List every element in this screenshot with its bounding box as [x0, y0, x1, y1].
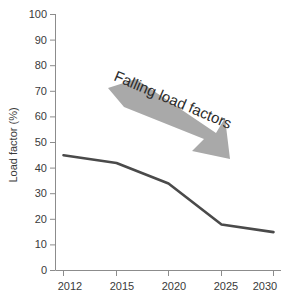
y-tick-label-10: 10: [35, 238, 47, 250]
x-tick-label-2015: 2015: [110, 280, 134, 292]
chart-canvas: 100 90 80 70 60 50 40 30 20 10 0 2012 20…: [0, 0, 289, 305]
y-tick-label-0: 0: [41, 264, 47, 276]
y-tick-label-70: 70: [35, 85, 47, 97]
y-tick-label-90: 90: [35, 34, 47, 46]
chart-background: [0, 0, 289, 305]
x-tick-label-2030: 2030: [253, 280, 277, 292]
y-axis-title: Load factor (%): [7, 107, 19, 182]
y-tick-label-40: 40: [35, 162, 47, 174]
x-tick-label-2020: 2020: [162, 280, 186, 292]
y-tick-label-30: 30: [35, 187, 47, 199]
y-tick-label-60: 60: [35, 110, 47, 122]
y-tick-label-20: 20: [35, 213, 47, 225]
y-tick-label-100: 100: [29, 8, 47, 20]
y-tick-label-50: 50: [35, 136, 47, 148]
x-tick-label-2012: 2012: [58, 280, 82, 292]
line-chart-figure: 100 90 80 70 60 50 40 30 20 10 0 2012 20…: [0, 0, 289, 305]
y-tick-label-80: 80: [35, 59, 47, 71]
x-tick-label-2025: 2025: [214, 280, 238, 292]
